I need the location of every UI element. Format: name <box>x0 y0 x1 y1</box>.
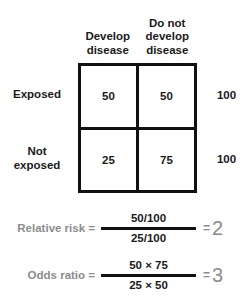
column-header-line: Develop <box>85 30 130 44</box>
result-value: 2 <box>212 218 223 238</box>
formula-label-relative-risk: Relative risk = <box>0 222 100 234</box>
row-label-exposed: Exposed <box>0 88 74 102</box>
row-label-line: exposed <box>0 159 74 173</box>
fraction-numerator: 50/100 <box>131 211 166 226</box>
fraction-odds-ratio: 50 × 75 25 × 50 <box>100 258 197 293</box>
formula-result-relative-risk: = 2 <box>197 218 248 238</box>
fraction-bar <box>101 227 196 230</box>
fraction-numerator: 50 × 75 <box>129 258 168 273</box>
equals-sign: = <box>203 268 210 282</box>
fraction-denominator: 25/100 <box>131 231 166 246</box>
fraction-denominator: 25 × 50 <box>129 278 168 293</box>
row-label-not-exposed: Not exposed <box>0 145 74 172</box>
column-header-develop-disease: Develop disease <box>78 4 138 60</box>
table-cell-not-exposed-develop: 25 <box>81 130 139 191</box>
column-header-do-not-develop-disease: Do not develop disease <box>138 4 198 60</box>
table-row-exposed: 50 50 <box>81 66 194 130</box>
row-label-line: Exposed <box>0 88 74 102</box>
formula-result-odds-ratio: = 3 <box>197 265 248 285</box>
equals-sign: = <box>203 221 210 235</box>
table-cell-exposed-develop: 50 <box>81 66 139 127</box>
formula-relative-risk: Relative risk = 50/100 25/100 = 2 <box>0 205 248 251</box>
column-header-line: disease <box>146 44 188 58</box>
row-total-exposed: 100 <box>205 89 248 101</box>
contingency-table: 50 50 25 75 <box>78 63 197 193</box>
column-header-line: develop <box>146 30 189 44</box>
fraction-relative-risk: 50/100 25/100 <box>100 211 197 246</box>
row-label-line: Not <box>0 145 74 159</box>
formula-label-odds-ratio: Odds ratio = <box>0 269 100 281</box>
column-header-line: Do not <box>149 17 185 31</box>
row-total-not-exposed: 100 <box>205 153 248 165</box>
column-headers: Develop disease Do not develop disease <box>78 4 197 60</box>
fraction-bar <box>101 274 196 277</box>
column-header-line: disease <box>87 44 129 58</box>
table-cell-not-exposed-not-develop: 75 <box>139 130 194 191</box>
table-row-not-exposed: 25 75 <box>81 130 194 191</box>
formula-odds-ratio: Odds ratio = 50 × 75 25 × 50 = 3 <box>0 252 248 298</box>
result-value: 3 <box>212 265 223 285</box>
table-cell-exposed-not-develop: 50 <box>139 66 194 127</box>
